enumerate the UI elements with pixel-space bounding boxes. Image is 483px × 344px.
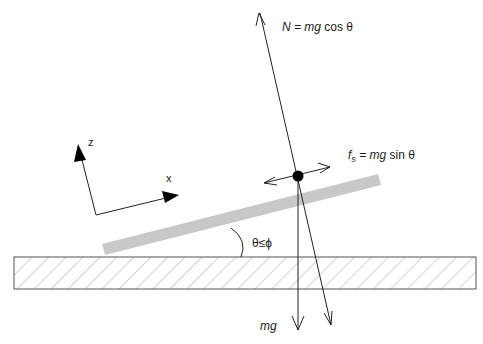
x-axis-line (96, 197, 170, 215)
x-axis-arrowhead-icon (162, 191, 179, 203)
normal-force-label: N = mg cos θ (282, 20, 353, 34)
incline-diagram (0, 0, 483, 344)
point-mass (293, 171, 304, 182)
normal-arrowhead-icon (256, 13, 265, 26)
ground-block (14, 257, 476, 289)
normal-force-symbol: N (282, 20, 291, 34)
z-axis-line (80, 152, 96, 215)
angle-arc (231, 228, 243, 257)
friction-force-label: fs = mg sin θ (348, 148, 415, 164)
z-axis-label: z (88, 136, 94, 148)
coordinate-axes (74, 144, 179, 215)
normal-force-equation: = mg cos θ (291, 20, 353, 34)
weight-label: mg (260, 319, 277, 333)
angle-label: θ≤ϕ (252, 236, 272, 250)
z-axis-arrowhead-icon (74, 144, 86, 162)
friction-equation: = mg sin θ (356, 148, 415, 162)
x-axis-label: x (166, 172, 172, 184)
inclined-plane (102, 174, 381, 255)
